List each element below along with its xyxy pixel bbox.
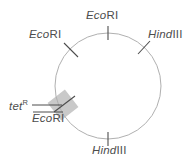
site-label-hindiii-bottom: HindIII — [92, 145, 127, 157]
site-label-hindiii-upper-right: HindIII — [148, 29, 183, 41]
site-label-upright-part: RI — [106, 9, 118, 21]
site-label-italic-part: Hind — [92, 144, 116, 156]
plasmid-diagram-svg — [0, 0, 193, 162]
gene-label-tet-r: tetR — [9, 99, 28, 112]
site-label-upright-part: RI — [52, 112, 64, 124]
site-label-italic-part: Eco — [29, 28, 49, 40]
gene-label-name: tet — [9, 100, 22, 112]
site-label-upright-part: III — [172, 28, 182, 40]
site-label-italic-part: Hind — [148, 28, 172, 40]
site-label-ecori-upper-left: EcoRI — [29, 29, 61, 41]
site-label-ecori-top: EcoRI — [86, 10, 118, 22]
site-label-upright-part: III — [116, 144, 126, 156]
site-label-italic-part: Eco — [32, 112, 52, 124]
plasmid-circle-backbone — [55, 33, 161, 139]
site-label-ecori-insert: EcoRI — [32, 113, 64, 125]
tick-ecori-upper-left — [64, 43, 78, 57]
site-label-upright-part: RI — [49, 28, 61, 40]
site-label-italic-part: Eco — [86, 9, 106, 21]
plasmid-restriction-map-figure: EcoRI HindIII EcoRI HindIII EcoRI tetR — [0, 0, 193, 162]
gene-label-superscript: R — [22, 98, 27, 107]
